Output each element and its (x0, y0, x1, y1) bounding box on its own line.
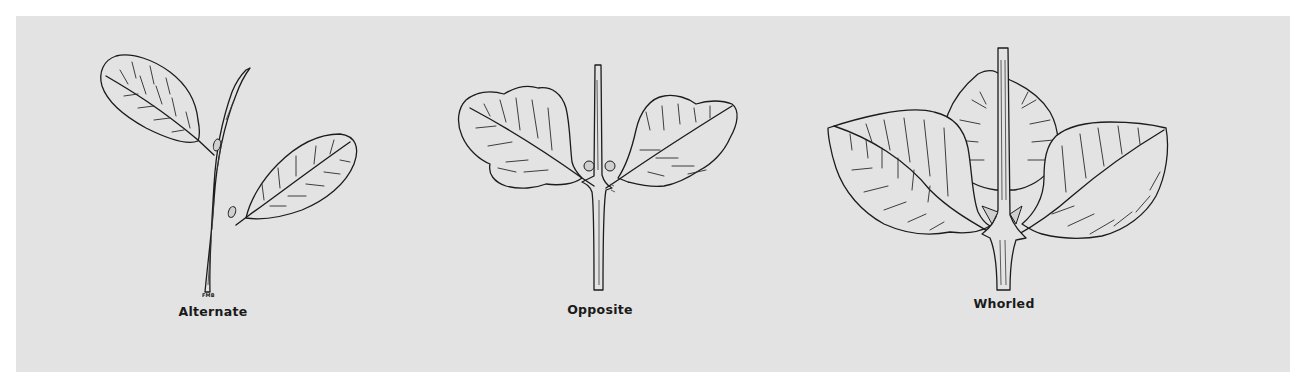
opposite-illustration (459, 65, 738, 290)
alternate-stem (205, 68, 250, 292)
opposite-bud-right (605, 161, 615, 171)
alternate-illustration (101, 55, 357, 292)
label-whorled: Whorled (973, 296, 1034, 311)
whorled-illustration (828, 48, 1168, 290)
label-alternate: Alternate (178, 304, 247, 319)
label-opposite: Opposite (567, 302, 633, 317)
leaf-arrangement-illustrations (0, 0, 1304, 383)
artist-signature: FMB (202, 292, 215, 298)
alternate-bud-lower (227, 206, 237, 219)
opposite-bud-left (584, 161, 594, 171)
